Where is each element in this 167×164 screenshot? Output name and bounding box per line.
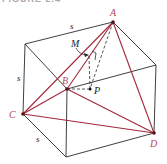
- label-C: C: [9, 109, 16, 120]
- vertex-C-dot: [21, 112, 25, 116]
- label-s-bottom: s: [36, 134, 40, 144]
- cube-edge-bottom-left: [23, 114, 66, 157]
- edge-AD: [113, 22, 154, 133]
- vertex-B-dot: [65, 87, 69, 91]
- label-M: M: [70, 38, 80, 49]
- cube-edge-right-vertical: [154, 65, 156, 133]
- cube-edge-top-right: [113, 22, 156, 65]
- label-D: D: [149, 138, 158, 149]
- label-A: A: [109, 7, 117, 18]
- point-P-dot: [88, 87, 91, 90]
- edge-AC: [23, 22, 113, 114]
- vertex-D-dot: [152, 131, 156, 135]
- label-s-left: s: [17, 73, 21, 83]
- cube-edge-top-front-left: [25, 44, 67, 89]
- label-P: P: [93, 85, 100, 96]
- dashed-MP: [89, 56, 90, 89]
- cube-edge-front-vertical: [66, 89, 67, 157]
- tetrahedron-edges: [23, 22, 154, 133]
- figure-caption-partial: FIGURE 2.4: [2, 0, 61, 4]
- vertex-A-dot: [111, 20, 115, 24]
- figure-canvas: A B C D M P s s s: [0, 0, 167, 164]
- cube-tetrahedron-figure: FIGURE 2.4: [0, 0, 167, 164]
- cube-edge-bottom-right: [66, 133, 154, 157]
- label-s-top: s: [70, 21, 74, 31]
- dashed-AP: [90, 22, 113, 89]
- label-B: B: [62, 75, 68, 86]
- edge-BC: [23, 89, 67, 114]
- vertex-dots: [21, 20, 156, 135]
- cube-edge-left-vertical: [23, 44, 25, 114]
